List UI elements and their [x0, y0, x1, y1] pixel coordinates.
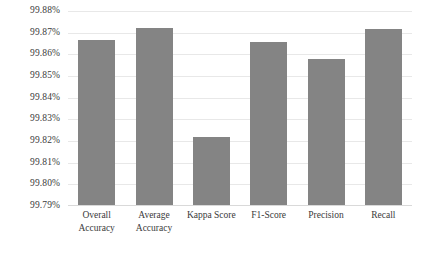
bar-chart: 99.88%99.87%99.86%99.85%99.84%99.83%99.8… — [0, 0, 434, 253]
y-axis: 99.88%99.87%99.86%99.85%99.84%99.83%99.8… — [0, 0, 66, 253]
bar — [250, 42, 287, 206]
x-axis-line — [68, 205, 412, 206]
x-tick-label: Overall Accuracy — [68, 209, 125, 234]
bar — [136, 28, 173, 206]
y-tick-label: 99.83% — [30, 115, 60, 125]
bar — [193, 137, 230, 206]
bars-group — [68, 11, 412, 206]
y-tick-label: 99.84% — [30, 93, 60, 103]
y-tick-label: 99.87% — [30, 28, 60, 38]
y-tick-label: 99.79% — [30, 201, 60, 211]
y-tick-label: 99.88% — [30, 6, 60, 16]
y-tick-label: 99.82% — [30, 136, 60, 146]
bar — [78, 40, 115, 206]
x-tick-label: F1-Score — [240, 209, 297, 222]
y-tick-label: 99.80% — [30, 180, 60, 190]
x-axis: Overall AccuracyAverage AccuracyKappa Sc… — [68, 209, 412, 253]
y-tick-label: 99.85% — [30, 71, 60, 81]
bar — [308, 59, 345, 206]
x-tick-label: Precision — [297, 209, 354, 222]
plot-area — [68, 11, 412, 206]
x-tick-label: Kappa Score — [183, 209, 240, 222]
y-tick-label: 99.81% — [30, 158, 60, 168]
x-tick-label: Average Accuracy — [125, 209, 182, 234]
bar — [365, 29, 402, 206]
x-tick-label: Recall — [355, 209, 412, 222]
y-tick-label: 99.86% — [30, 50, 60, 60]
